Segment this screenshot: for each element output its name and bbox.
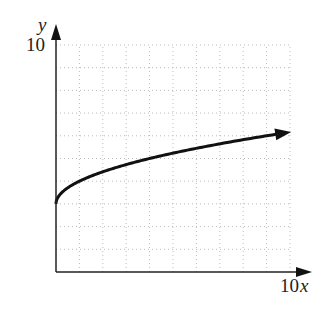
curve-arrow-icon — [274, 128, 291, 140]
chart-canvas — [0, 0, 332, 310]
y-axis-label: y — [38, 14, 46, 36]
grid — [56, 45, 290, 272]
y-axis-arrow-icon — [51, 24, 61, 40]
x-axis-label: x — [300, 275, 308, 297]
data-curve — [56, 134, 279, 204]
y-max-tick-label: 10 — [26, 34, 45, 56]
x-max-tick-label: 10 — [280, 275, 299, 297]
